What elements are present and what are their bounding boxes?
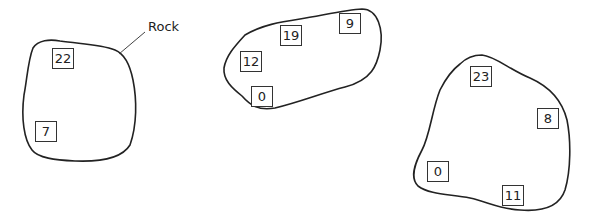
rock-3-value-box: 23	[470, 66, 492, 87]
rock-label: Rock	[148, 19, 179, 34]
rock-2-value-box: 9	[339, 13, 361, 34]
rock-2-value-box: 12	[240, 51, 262, 72]
rock-2-value-box: 19	[280, 25, 302, 46]
rock-3-value-box: 8	[537, 108, 559, 129]
rock-3-value-box: 0	[427, 161, 449, 182]
rock-1-value-box: 22	[52, 48, 74, 69]
rock-3-value-box: 11	[502, 185, 524, 206]
rock-label-leader-line	[119, 32, 145, 54]
diagram-canvas: Rock 22 7 9 19 12 0 23 8 0 11	[0, 0, 591, 221]
rock-2-value-box: 0	[251, 86, 273, 107]
rock-1-value-box: 7	[35, 121, 57, 142]
rock-1-outline	[23, 40, 136, 161]
